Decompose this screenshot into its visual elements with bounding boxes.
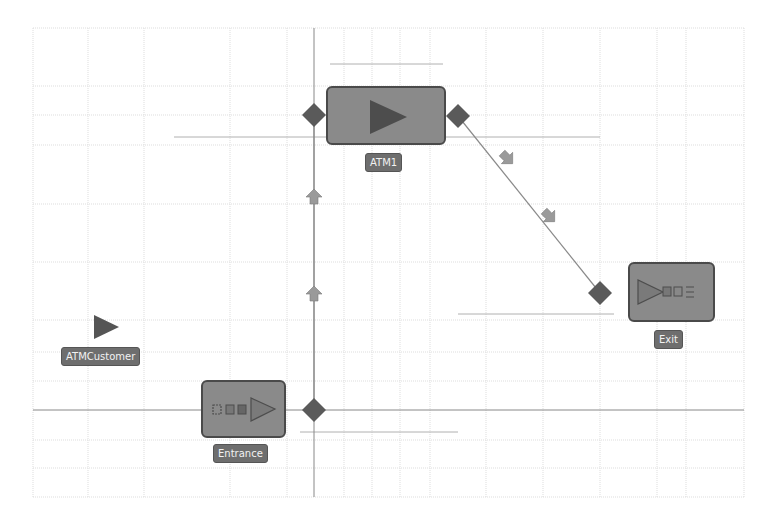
- source-icon: [203, 382, 284, 436]
- entrance-label: Entrance: [213, 444, 268, 463]
- agent-label: ATMCustomer: [61, 347, 140, 366]
- port-diamond-icon[interactable]: [446, 104, 470, 128]
- flow-arrow-icon: [306, 286, 322, 301]
- port-diamond-icon[interactable]: [588, 281, 612, 305]
- port-diamond-icon[interactable]: [302, 398, 326, 422]
- flow-arrow-icon: [306, 189, 322, 204]
- flow-arrow-icon: [538, 205, 560, 227]
- exit-block[interactable]: [628, 262, 715, 322]
- exit-label: Exit: [654, 330, 683, 349]
- sink-icon: [630, 264, 713, 320]
- atm1-block[interactable]: [326, 86, 446, 145]
- entrance-block[interactable]: [201, 380, 286, 438]
- port-diamond-icon[interactable]: [302, 103, 326, 127]
- agent-triangle-icon[interactable]: [92, 312, 122, 342]
- atm1-label: ATM1: [365, 153, 402, 172]
- play-icon: [328, 88, 444, 143]
- flow-arrow-icon: [496, 147, 518, 169]
